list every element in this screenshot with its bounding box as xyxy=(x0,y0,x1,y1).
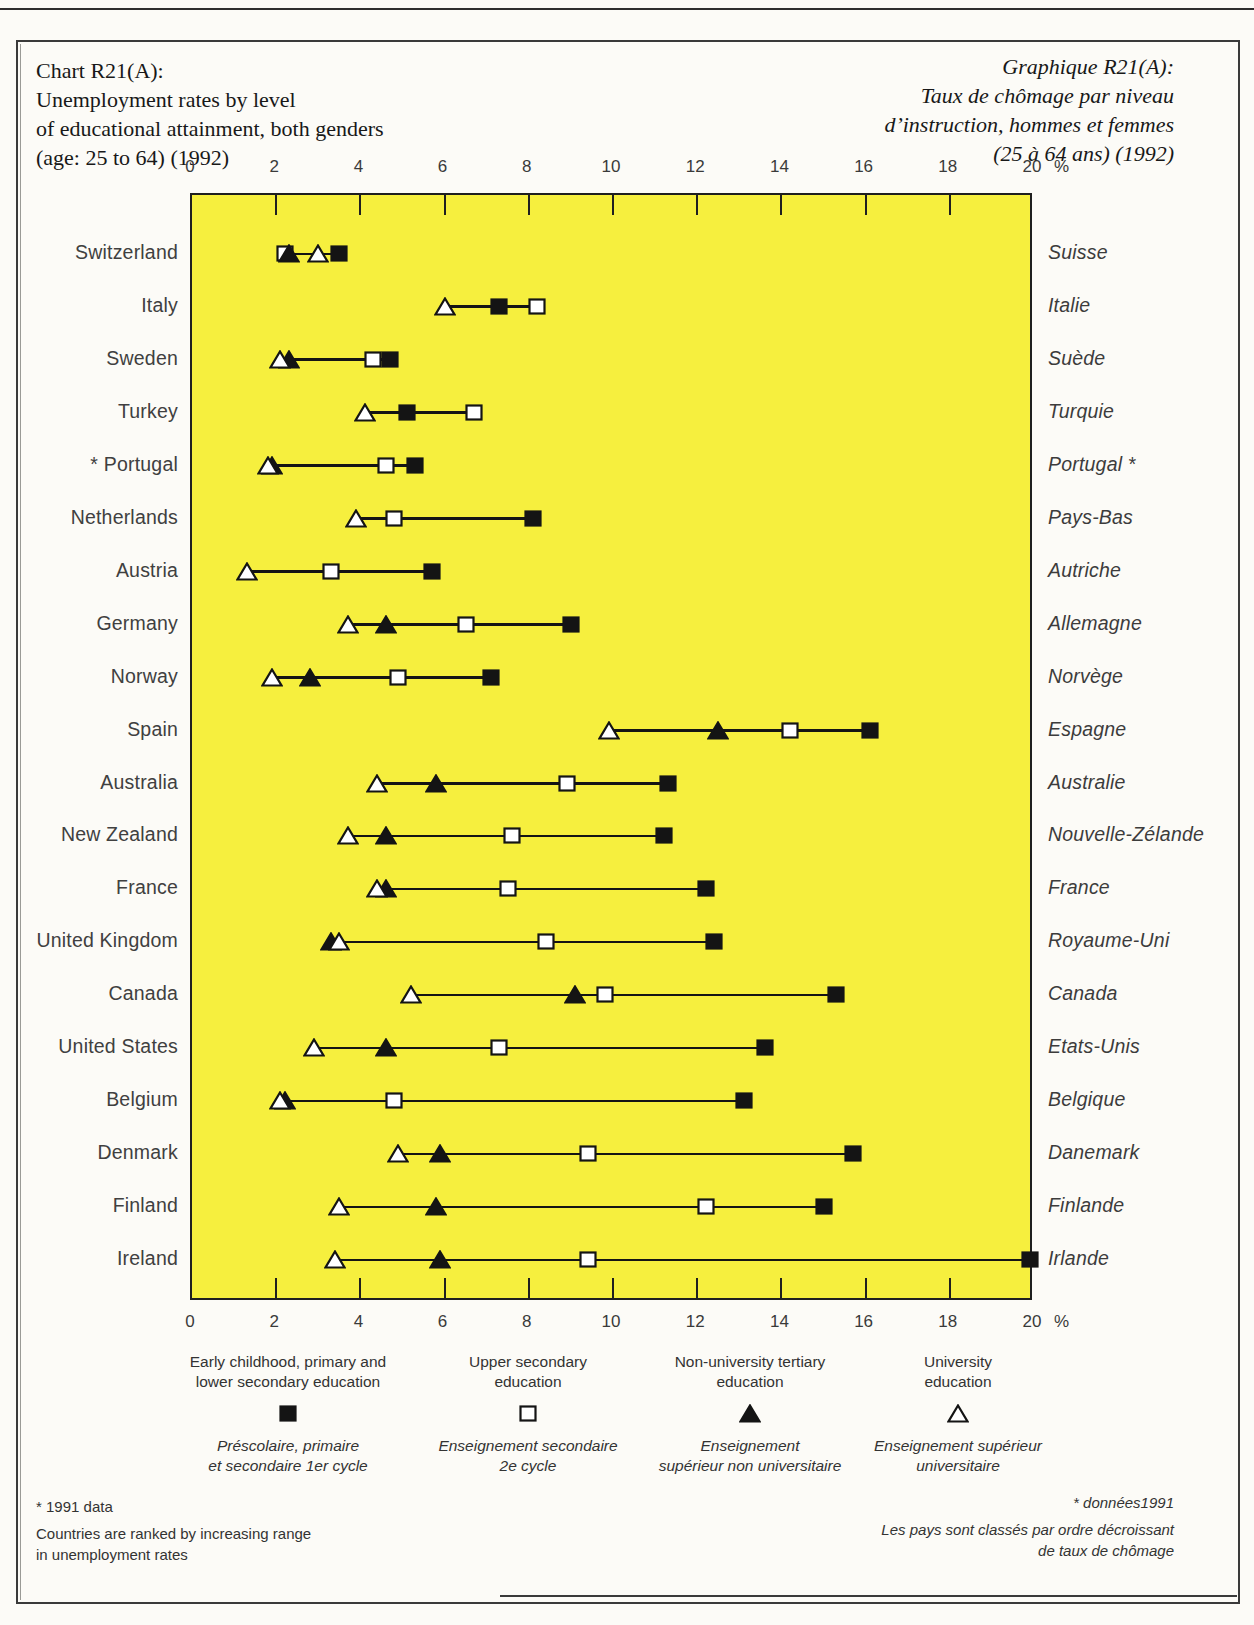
filled-triangle-icon xyxy=(429,1144,451,1163)
marker-university xyxy=(303,1038,325,1061)
axis-unit-label: % xyxy=(1054,157,1069,177)
axis-tick-label: 8 xyxy=(522,1312,531,1332)
filled-square-icon xyxy=(842,1144,864,1163)
marker-university xyxy=(434,297,456,320)
open-square-icon xyxy=(517,1404,539,1423)
country-label-en: Austria xyxy=(116,558,178,581)
open-triangle-icon xyxy=(366,774,388,793)
marker-primary xyxy=(1019,1250,1041,1273)
country-label-en: Belgium xyxy=(106,1088,178,1111)
country-label-fr: Etats-Unis xyxy=(1048,1035,1140,1058)
axis-tick-label: 12 xyxy=(686,1312,705,1332)
open-triangle-icon xyxy=(328,1197,350,1216)
country-label-en: Denmark xyxy=(97,1141,178,1164)
marker-primary xyxy=(733,1091,755,1114)
title-en-line: Unemployment rates by level xyxy=(36,85,384,114)
marker-upper_secondary xyxy=(577,1250,599,1273)
axis-tick-label: 10 xyxy=(602,157,621,177)
open-square-icon xyxy=(383,509,405,528)
marker-university xyxy=(345,509,367,532)
plot-area xyxy=(190,193,1032,1300)
country-label-fr: Turquie xyxy=(1048,399,1114,422)
country-label-fr: Nouvelle-Zélande xyxy=(1048,823,1204,846)
axis-tick-mark xyxy=(696,1278,698,1298)
marker-university xyxy=(337,826,359,849)
marker-university xyxy=(236,562,258,585)
country-label-fr: Danemark xyxy=(1048,1141,1140,1164)
marker-upper_secondary xyxy=(455,615,477,638)
marker-primary xyxy=(842,1144,864,1167)
open-triangle-icon xyxy=(354,403,376,422)
open-triangle-icon xyxy=(345,509,367,528)
axis-tick-mark xyxy=(612,1278,614,1298)
filled-triangle-icon xyxy=(739,1404,761,1423)
country-label-en: Finland xyxy=(113,1194,178,1217)
filled-square-icon xyxy=(825,985,847,1004)
open-triangle-icon xyxy=(947,1404,969,1423)
marker-non_university_tertiary xyxy=(375,826,397,849)
range-line xyxy=(280,1100,743,1103)
marker-university xyxy=(307,244,329,267)
marker-upper_secondary xyxy=(497,879,519,902)
open-triangle-icon xyxy=(328,932,350,951)
filled-square-icon xyxy=(733,1091,755,1110)
range-line xyxy=(331,941,714,944)
axis-tick-label: 0 xyxy=(185,157,194,177)
marker-non_university_tertiary xyxy=(564,985,586,1008)
marker-upper_secondary xyxy=(375,456,397,479)
marker-university xyxy=(366,774,388,797)
legend-marker xyxy=(947,1404,969,1427)
filled-square-icon xyxy=(421,562,443,581)
range-line xyxy=(365,411,474,414)
axis-tick-label: 8 xyxy=(522,157,531,177)
legend-label-fr: Enseignement supérieuruniversitaire xyxy=(874,1436,1042,1476)
marker-primary xyxy=(522,509,544,532)
country-label-en: Germany xyxy=(96,611,178,634)
axis-tick-label: 4 xyxy=(354,1312,363,1332)
filled-triangle-icon xyxy=(375,826,397,845)
axis-tick-label: 2 xyxy=(269,1312,278,1332)
axis-tick-mark xyxy=(528,1278,530,1298)
filled-square-icon xyxy=(1019,1250,1041,1269)
filled-square-icon xyxy=(396,403,418,422)
country-label-en: New Zealand xyxy=(61,823,178,846)
filled-square-icon xyxy=(657,774,679,793)
legend-marker xyxy=(277,1404,299,1427)
marker-university xyxy=(400,985,422,1008)
marker-upper_secondary xyxy=(488,1038,510,1061)
marker-primary xyxy=(480,668,502,691)
axis-tick-label: 16 xyxy=(854,1312,873,1332)
country-label-fr: Finlande xyxy=(1048,1194,1124,1217)
legend-label-fr: Enseignement secondaire2e cycle xyxy=(438,1436,617,1476)
marker-upper_secondary xyxy=(526,297,548,320)
open-triangle-icon xyxy=(257,456,279,475)
axis-tick-label: 14 xyxy=(770,157,789,177)
country-label-fr: Belgique xyxy=(1048,1088,1126,1111)
marker-upper_secondary xyxy=(695,1197,717,1220)
marker-upper_secondary xyxy=(556,774,578,797)
footnote-ranking-line: Countries are ranked by increasing range xyxy=(36,1523,311,1544)
country-label-en: Turkey xyxy=(118,399,178,422)
marker-university xyxy=(269,350,291,373)
filled-square-icon xyxy=(560,615,582,634)
marker-university xyxy=(387,1144,409,1167)
filled-triangle-icon xyxy=(707,721,729,740)
filled-square-icon xyxy=(328,244,350,263)
marker-non_university_tertiary xyxy=(299,668,321,691)
filled-triangle-icon xyxy=(564,985,586,1004)
range-line xyxy=(411,994,836,997)
marker-upper_secondary xyxy=(383,1091,405,1114)
filled-square-icon xyxy=(754,1038,776,1057)
axis-tick-label: 20 xyxy=(1023,157,1042,177)
marker-upper_secondary xyxy=(383,509,405,532)
country-label-en: Norway xyxy=(111,664,178,687)
filled-triangle-icon xyxy=(429,1250,451,1269)
filled-square-icon xyxy=(703,932,725,951)
marker-primary xyxy=(421,562,443,585)
axis-tick-mark xyxy=(612,195,614,215)
axis-tick-mark xyxy=(275,195,277,215)
filled-triangle-icon xyxy=(425,1197,447,1216)
filled-square-icon xyxy=(488,297,510,316)
title-en-line: (age: 25 to 64) (1992) xyxy=(36,143,384,172)
country-label-en: Netherlands xyxy=(71,505,178,528)
